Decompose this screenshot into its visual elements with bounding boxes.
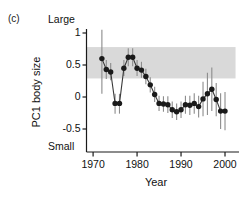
data-point [99, 56, 104, 61]
data-point [143, 74, 148, 79]
data-point [139, 67, 144, 72]
data-point [165, 102, 170, 107]
data-point [205, 91, 210, 96]
data-point [178, 107, 183, 112]
data-point [214, 97, 219, 102]
data-point [121, 66, 126, 71]
data-point [130, 55, 135, 60]
data-point [192, 101, 197, 106]
data-point [222, 108, 227, 113]
data-point [148, 82, 153, 87]
data-point [117, 101, 122, 106]
data-point [108, 69, 113, 74]
data-point [152, 92, 157, 97]
plot-area [0, 0, 252, 197]
figure-panel-c: (c) Large Small PC1 body size Year 10.50… [0, 0, 252, 197]
data-point [200, 96, 205, 101]
data-point [196, 104, 201, 109]
data-point [209, 87, 214, 92]
series-pc1-body-size [99, 30, 228, 130]
